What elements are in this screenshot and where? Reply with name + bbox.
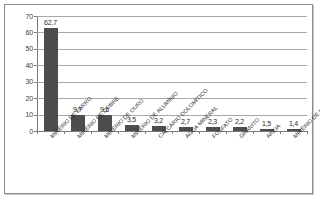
x-axis-tick-mark [145,131,146,134]
bar-value-label: 2,3 [208,118,217,126]
bar-value-label: 1,4 [289,120,298,128]
bar-value-label: 1,5 [262,120,271,128]
x-axis-tick-mark [118,131,119,134]
bar-value-label: 2,2 [235,118,244,126]
bar-value-label: 2,7 [181,118,190,126]
bar-slot: 2,2 [226,16,253,131]
x-axis-tick-mark [64,131,65,134]
x-axis-tick-mark [37,131,38,134]
bar-value-label: 62,7 [44,19,57,27]
x-axis-tick-mark [307,131,308,134]
x-axis-tick-mark [91,131,92,134]
y-axis-tick-label: 30 [7,78,33,85]
x-axis-tick-mark [199,131,200,134]
x-axis-tick-mark [226,131,227,134]
y-axis-tick-label: 60 [7,29,33,36]
bar-slot: 1,4 [280,16,307,131]
bar-slot: 62,7 [37,16,64,131]
x-axis-tick-mark [280,131,281,134]
y-axis-tick-label: 70 [7,13,33,20]
y-axis-tick-label: 10 [7,111,33,118]
y-axis-tick-label: 50 [7,45,33,52]
y-axis-tick-label: 0 [7,128,33,135]
x-axis-tick-mark [172,131,173,134]
bar-slot: 1,5 [253,16,280,131]
x-axis-tick-mark [253,131,254,134]
y-axis-tick-label: 40 [7,62,33,69]
y-axis-tick-label: 20 [7,95,33,102]
chart-frame: 010203040506070 62,79,79,63,53,22,72,32,… [4,4,313,194]
bar[interactable] [44,28,58,131]
